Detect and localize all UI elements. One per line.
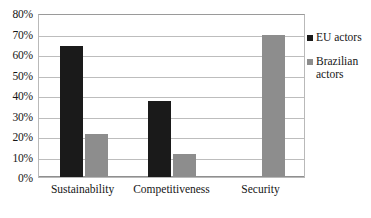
x-axis-tick-label-security: Security [216, 183, 305, 196]
legend-item-eu-actors: EU actors [307, 31, 371, 45]
y-axis-tick-label: 80% [0, 9, 33, 21]
legend-label: EU actors [316, 31, 362, 45]
y-axis-tick-label: 70% [0, 30, 33, 42]
y-axis-tick-label: 40% [0, 91, 33, 103]
bar-chart: 80% 70% 60% 50% 40% 30% 20% 10% 0% Susta… [0, 0, 371, 218]
bar-eu-actors-competitiveness [148, 101, 171, 177]
y-axis-tick-label: 50% [0, 71, 33, 83]
x-axis: Sustainability Competitiveness Security [38, 180, 305, 202]
y-axis-tick-label: 10% [0, 153, 33, 165]
y-axis: 80% 70% 60% 50% 40% 30% 20% 10% 0% [0, 0, 36, 218]
chart-legend: EU actors Brazilian actors [307, 31, 371, 92]
y-axis-tick-label: 60% [0, 50, 33, 62]
x-axis-tick-label-competitiveness: Competitiveness [127, 183, 216, 196]
y-axis-tick-label: 0% [0, 173, 33, 185]
bar-brazilian-actors-security [262, 35, 285, 177]
x-axis-tick-label-sustainability: Sustainability [38, 183, 127, 196]
y-axis-tick-label: 20% [0, 132, 33, 144]
legend-item-brazilian-actors: Brazilian actors [307, 55, 371, 82]
bar-eu-actors-sustainability [60, 46, 83, 177]
plot-area [38, 14, 305, 178]
bars-layer [39, 15, 304, 177]
y-axis-tick-label: 30% [0, 112, 33, 124]
legend-swatch-icon [307, 35, 313, 41]
legend-label: Brazilian actors [316, 55, 371, 82]
legend-swatch-icon [307, 59, 313, 65]
bar-brazilian-actors-sustainability [85, 134, 108, 177]
bar-brazilian-actors-competitiveness [173, 154, 196, 177]
